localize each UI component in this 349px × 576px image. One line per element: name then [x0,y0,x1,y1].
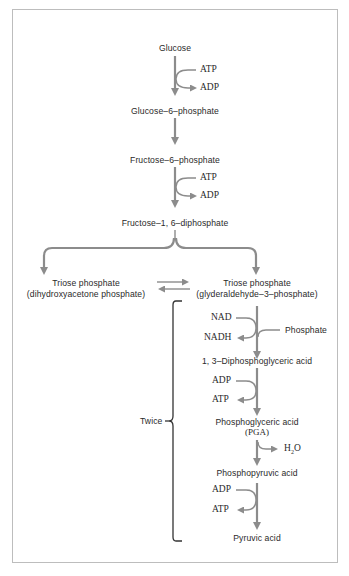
node-diphosphoglyceric-acid: 1, 3–Diphosphoglyceric acid [202,356,312,366]
label-adp-4: ADP [212,484,231,494]
node-triose-right-subtitle: (glyderaldehyde–3–phosphate) [196,289,317,299]
node-pga-abbrev: (PGA) [245,427,269,437]
label-atp-4: ATP [212,504,229,514]
node-fructose-6-phosphate: Fructose–6–phosphate [130,155,220,165]
label-twice: Twice [140,416,162,426]
label-nad: NAD [211,312,232,322]
label-atp-3: ATP [212,394,229,404]
node-phosphoglyceric-acid: Phosphoglyceric acid [215,417,298,427]
node-glucose-6-phosphate: Glucose–6–phosphate [131,106,219,116]
node-glucose: Glucose [159,43,191,53]
node-fructose-1-6-diphosphate: Fructose–1, 6–diphosphate [122,218,229,228]
node-phosphopyruvic-acid: Phosphopyruvic acid [216,468,297,478]
label-adp-2: ADP [200,190,219,200]
label-atp-1: ATP [200,64,217,74]
node-pyruvic-acid: Pyruvic acid [233,533,281,543]
label-adp-3: ADP [212,375,231,385]
node-triose-left-title: Triose phosphate [52,278,120,288]
arrow-branch-right [176,238,256,272]
label-atp-2: ATP [200,172,217,182]
label-h2o: H2O [284,443,301,455]
twice-brace [165,301,182,541]
label-adp-1: ADP [200,82,219,92]
label-nadh: NADH [204,332,231,342]
node-triose-left-subtitle: (dihydroxyacetone phosphate) [27,289,145,299]
pathway-arrows [0,0,349,576]
label-phosphate: Phosphate [285,325,327,335]
arrow-branch-left [44,238,174,272]
node-triose-right-title: Triose phosphate [223,278,291,288]
